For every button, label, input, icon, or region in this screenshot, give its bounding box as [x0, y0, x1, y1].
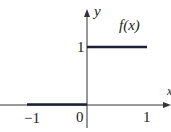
x-axis-arrow-icon	[163, 102, 171, 108]
y-tick-1: 1	[77, 40, 85, 55]
y-axis-arrow-icon	[84, 9, 90, 17]
y-axis-label: y	[94, 4, 101, 19]
x-axis-label: x	[167, 85, 171, 97]
x-tick-1: 1	[143, 110, 151, 125]
x-tick-0: 0	[76, 110, 84, 125]
function-label: f(x)	[119, 18, 140, 33]
x-tick-neg1: −1	[24, 111, 40, 126]
